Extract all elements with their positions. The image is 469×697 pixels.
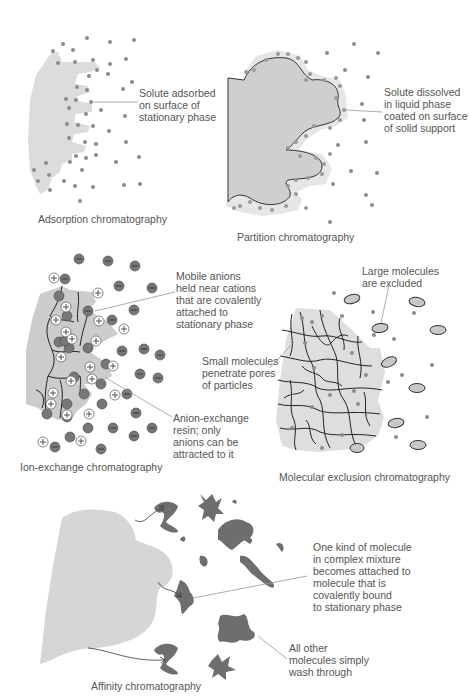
adsorption-label: Solute adsorbed on surface of stationary… bbox=[139, 87, 216, 123]
affinity-caption: Affinity chromatography bbox=[91, 680, 201, 692]
partition-label: Solute dissolved in liquid phase coated … bbox=[384, 86, 467, 134]
affinity-bottom-label: All other molecules simply wash through bbox=[289, 642, 369, 678]
partition-panel bbox=[226, 42, 382, 224]
adsorption-caption: Adsorption chromatography bbox=[38, 213, 167, 225]
bound-target-molecule bbox=[174, 580, 193, 614]
adsorption-panel bbox=[28, 36, 142, 203]
exclusion-top-label: Large molecules are excluded bbox=[362, 265, 439, 289]
unbound-molecule-cluster bbox=[218, 614, 255, 643]
affinity-panel bbox=[40, 494, 307, 680]
affinity-top-label: One kind of molecule in complex mixture … bbox=[313, 541, 412, 613]
partition-leader-line bbox=[346, 110, 382, 112]
affinity-top-leader-line bbox=[193, 576, 307, 598]
affinity-bottom-leader-line bbox=[258, 636, 287, 659]
molecular-exclusion-panel bbox=[270, 285, 446, 453]
gel-particle bbox=[276, 308, 385, 452]
affinity-stationary-phase bbox=[40, 510, 173, 664]
adsorption-stationary-phase bbox=[28, 52, 100, 194]
ion-exchange-caption: Ion-exchange chromatography bbox=[20, 461, 162, 473]
ion-exchange-panel bbox=[26, 254, 175, 454]
ion-exchange-bottom-label: Anion-exchange resin; only anions can be… bbox=[173, 412, 249, 460]
exclusion-top-leader-line bbox=[381, 285, 389, 323]
exclusion-caption: Molecular exclusion chromatography bbox=[279, 471, 450, 483]
exclusion-left-label: Small molecules penetrate pores of parti… bbox=[202, 355, 278, 391]
mixture-molecules bbox=[154, 494, 284, 680]
partition-free-dots bbox=[325, 42, 380, 224]
affinity-ligand-bottom bbox=[154, 644, 178, 675]
partition-caption: Partition chromatography bbox=[237, 231, 354, 243]
ion-exchange-top-label: Mobile anions held near cations that are… bbox=[176, 270, 261, 330]
affinity-ligand-top bbox=[154, 502, 178, 533]
